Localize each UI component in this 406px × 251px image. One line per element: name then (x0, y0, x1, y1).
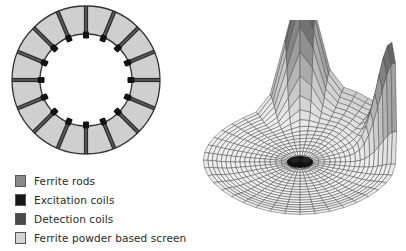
legend-label: Excitation coils (34, 194, 114, 206)
surface-mesh (203, 20, 396, 214)
excitation-coil (128, 77, 135, 83)
legend-label: Ferrite rods (34, 175, 95, 187)
detection-coils-swatch (15, 213, 26, 225)
excitation-coil (83, 32, 89, 39)
legend-item-excitation-coils: Excitation coils (15, 190, 186, 209)
field-surface-plot (200, 20, 406, 230)
ferrite-ring-diagram (0, 0, 175, 165)
legend-item-detection-coils: Detection coils (15, 209, 186, 228)
excitation-coil (83, 122, 89, 129)
legend-item-ferrite-rods: Ferrite rods (15, 171, 186, 190)
legend-label: Ferrite powder based screen (34, 232, 186, 244)
ferrite-screen-swatch (15, 232, 26, 244)
excitation-coil (38, 77, 45, 83)
legend-label: Detection coils (34, 213, 113, 225)
legend: Ferrite rods Excitation coils Detection … (15, 171, 186, 247)
legend-item-ferrite-screen: Ferrite powder based screen (15, 228, 186, 247)
ferrite-rods-swatch (15, 175, 26, 187)
excitation-coils-swatch (15, 194, 26, 206)
